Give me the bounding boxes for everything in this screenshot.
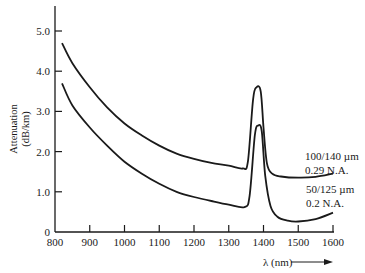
series-label-50-125: 50/125 µm (306, 183, 355, 195)
x-tick-label: 1500 (287, 236, 310, 248)
series-line-0 (62, 43, 333, 178)
y-axis-label: Attenuation (dB/km) (8, 103, 32, 153)
arrow-right-icon (291, 259, 333, 265)
x-axis-label: λ (nm) (263, 256, 333, 269)
y-tick-label: 2.0 (36, 146, 50, 158)
y-ticks: 01.02.03.04.05.0 (36, 25, 62, 238)
attenuation-chart: 01.02.03.04.05.0 80090010001100120013001… (0, 0, 365, 273)
y-axis-label-line2: (dB/km) (20, 111, 32, 147)
x-tick-label: 1000 (114, 236, 137, 248)
x-tick-label: 900 (82, 236, 99, 248)
series-line-1 (62, 83, 333, 221)
x-axis-label-text: λ (nm) (263, 256, 293, 269)
x-tick-label: 1200 (183, 236, 206, 248)
x-tick-label: 1300 (218, 236, 241, 248)
y-tick-label: 5.0 (36, 25, 50, 37)
x-tick-label: 800 (47, 236, 64, 248)
series-label-100-140: 100/140 µm (305, 150, 359, 162)
x-tick-label: 1100 (148, 236, 170, 248)
series-label-100-140-na: 0.29 N.A. (305, 164, 349, 176)
series-lines (62, 43, 333, 222)
x-ticks: 8009001000110012001300140015001600 (47, 225, 345, 248)
series-label-50-125-na: 0.2 N.A. (306, 197, 344, 209)
y-axis-label-line1: Attenuation (8, 103, 19, 153)
y-tick-label: 1.0 (36, 186, 50, 198)
x-tick-label: 1600 (322, 236, 345, 248)
y-tick-label: 4.0 (36, 65, 50, 77)
y-tick-label: 3.0 (36, 105, 50, 117)
series-labels: 100/140 µm 0.29 N.A. 50/125 µm 0.2 N.A. (305, 150, 359, 209)
x-tick-label: 1400 (253, 236, 276, 248)
